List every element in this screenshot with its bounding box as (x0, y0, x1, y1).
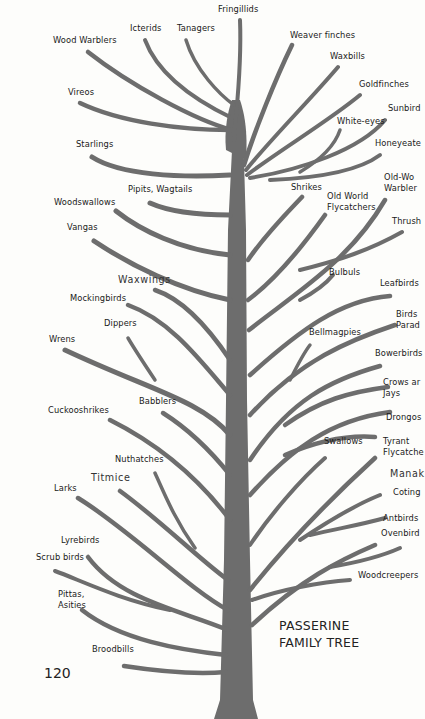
page-number: 120 (44, 665, 71, 681)
family-label: Honeyeate (375, 138, 421, 149)
family-label: Titmice (91, 472, 130, 483)
branch-shrikes (248, 197, 302, 260)
family-label: Coting (393, 487, 421, 498)
branch-old-world-flycatchers (248, 215, 325, 300)
family-label: Sunbird (388, 103, 421, 114)
family-label: White-eyes (337, 116, 385, 127)
title-line-1: PASSERINE (279, 617, 359, 634)
family-label: Birds Parad (396, 309, 420, 331)
family-label: Tanagers (177, 23, 215, 34)
family-label: Icterids (130, 23, 161, 34)
family-label: Old-Wo Warbler (384, 172, 417, 194)
branch-bellmagpies (290, 345, 310, 380)
branch-woodswallows (116, 211, 230, 255)
family-label: Cuckooshrikes (48, 405, 109, 416)
branch-drongos (250, 412, 390, 495)
family-label: Woodcreepers (358, 570, 418, 581)
branch-starlings (92, 157, 230, 176)
family-label: Manak (390, 468, 425, 479)
family-label: Old World Flycatchers (327, 191, 376, 213)
branch-thrushes (300, 232, 402, 270)
family-label: Thrush (392, 216, 421, 227)
family-label: Vangas (67, 222, 98, 233)
family-label: Nuthatches (115, 454, 164, 465)
family-label: Scrub birds (36, 552, 84, 563)
family-label: Bowerbirds (375, 348, 423, 359)
family-label: Larks (54, 483, 77, 494)
family-label: Antbirds (383, 513, 418, 524)
family-label: Drongos (386, 412, 421, 423)
family-label: Pittas, Asities (58, 589, 86, 611)
family-label: Bellmagpies (309, 327, 361, 338)
family-label: Vireos (68, 87, 94, 98)
family-label: Starlings (76, 139, 113, 150)
title-line-2: FAMILY TREE (279, 634, 359, 651)
family-label: Fringillids (218, 4, 258, 15)
family-label: Goldfinches (359, 79, 409, 90)
family-label: Woodswallows (54, 197, 115, 208)
family-label: Waxbills (330, 51, 365, 62)
family-label: Bulbuls (329, 267, 360, 278)
family-label: Tyrant Flycatche (383, 436, 424, 458)
family-label: Crows ar Jays (383, 377, 420, 399)
family-label: Babblers (139, 396, 176, 407)
branch-sunbirds (250, 120, 385, 178)
branch-pipits (150, 203, 230, 215)
family-label: Waxwings (118, 274, 171, 285)
family-label: Shrikes (291, 182, 322, 193)
diagram-title: PASSERINE FAMILY TREE (279, 617, 359, 651)
family-label: Weaver finches (290, 30, 355, 41)
family-label: Leafbirds (380, 278, 419, 289)
family-label: Pipits, Wagtails (128, 184, 192, 195)
branch-broadbills (124, 666, 226, 673)
family-label: Swallows (324, 436, 363, 447)
family-label: Wood Warblers (53, 35, 117, 46)
family-label: Wrens (49, 334, 75, 345)
branch-dippers (128, 338, 155, 380)
family-label: Mockingbirds (70, 293, 126, 304)
family-label: Broodbills (92, 644, 134, 655)
family-label: Ovenbird (381, 528, 420, 539)
trunk (214, 140, 258, 719)
family-label: Lyrebirds (61, 535, 99, 546)
family-label: Dippers (104, 318, 137, 329)
branch-titmice (120, 491, 228, 580)
